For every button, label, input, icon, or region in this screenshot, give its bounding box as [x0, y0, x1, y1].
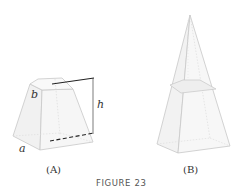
- panel-a-caption: (A): [46, 164, 61, 175]
- label-a: a: [19, 142, 26, 155]
- panel-b-caption: (B): [183, 164, 198, 175]
- figure-canvas: b h a (A) (B) FIGURE 23: [0, 0, 241, 194]
- pyramid-b: (B): [157, 15, 230, 175]
- label-h: h: [97, 98, 104, 111]
- label-b: b: [31, 88, 38, 101]
- frustum-a: b h a (A): [13, 78, 104, 175]
- figure-caption: FIGURE 23: [96, 178, 146, 188]
